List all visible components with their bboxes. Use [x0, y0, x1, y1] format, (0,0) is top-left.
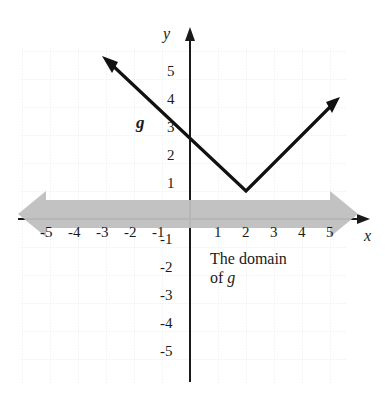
y-tick-2: 2	[167, 148, 175, 163]
y-axis-label: y	[163, 26, 170, 42]
x-axis-label: x	[364, 228, 371, 244]
domain-annotation: The domain of g	[210, 249, 287, 287]
x-tick-neg-4: -4	[68, 225, 81, 240]
plot-canvas	[0, 0, 385, 396]
domain-annotation-line2: of g	[210, 268, 287, 287]
x-tick-neg-2: -2	[124, 225, 137, 240]
x-tick-3: 3	[270, 225, 278, 240]
y-tick-neg-2: -2	[160, 260, 173, 275]
x-tick-4: 4	[298, 225, 306, 240]
y-tick-4: 4	[167, 92, 175, 107]
domain-annotation-g: g	[227, 269, 235, 286]
x-tick-neg-1: -1	[152, 225, 165, 240]
graph-figure: y x g 5 4 3 2 1 -1 -2 -3 -4 -5 -5 -4 -3 …	[0, 0, 385, 396]
y-tick-3: 3	[167, 120, 175, 135]
y-tick-1: 1	[167, 176, 175, 191]
x-tick-neg-3: -3	[96, 225, 109, 240]
x-tick-5: 5	[326, 225, 334, 240]
domain-annotation-prefix: of	[210, 269, 227, 286]
y-tick-neg-4: -4	[160, 316, 173, 331]
y-tick-5: 5	[167, 64, 175, 79]
y-tick-neg-3: -3	[160, 288, 173, 303]
x-tick-2: 2	[242, 225, 250, 240]
curve-label-g: g	[136, 114, 145, 131]
y-tick-neg-5: -5	[160, 344, 173, 359]
x-tick-1: 1	[214, 225, 222, 240]
domain-annotation-line1: The domain	[210, 249, 287, 268]
x-tick-neg-5: -5	[40, 225, 53, 240]
